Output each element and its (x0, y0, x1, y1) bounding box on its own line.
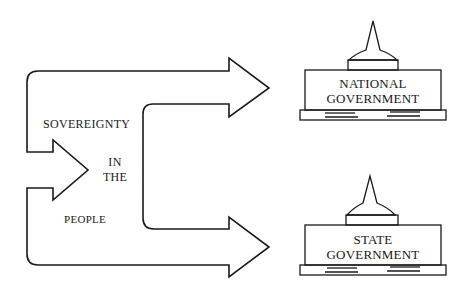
state-label-line1: STATE (305, 232, 441, 247)
state-label-line2: GOVERNMENT (305, 247, 441, 262)
forked-arrow-shape (27, 58, 269, 277)
label-sovereignty: SOVEREIGNTY (43, 117, 130, 132)
label-in: IN (100, 155, 130, 170)
national-label-line1: NATIONAL (305, 76, 441, 91)
label-the: THE (99, 170, 131, 185)
label-people: PEOPLE (64, 213, 106, 225)
national-government-label: NATIONAL GOVERNMENT (305, 76, 441, 106)
national-label-line2: GOVERNMENT (305, 91, 441, 106)
state-government-label: STATE GOVERNMENT (305, 232, 441, 262)
